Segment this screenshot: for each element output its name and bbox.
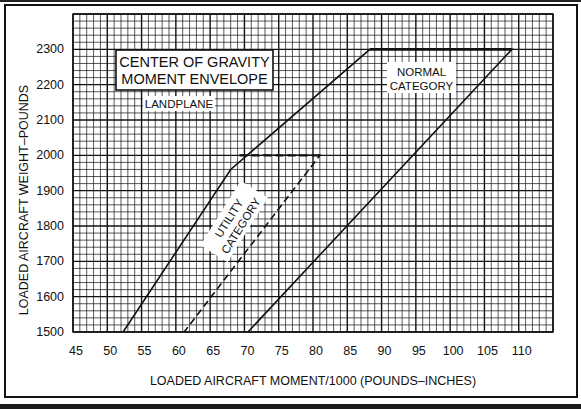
x-tick-label: 80	[309, 344, 323, 358]
x-tick-label: 45	[69, 344, 83, 358]
x-tick-label: 75	[275, 344, 289, 358]
x-axis-ticks: 4550556065707580859095100105110	[69, 344, 532, 358]
y-tick-label: 1600	[36, 290, 64, 304]
x-tick-label: 65	[206, 344, 220, 358]
y-tick-label: 1800	[36, 219, 64, 233]
x-tick-label: 50	[103, 344, 117, 358]
x-tick-label: 70	[240, 344, 254, 358]
landplane-label: LANDPLANE	[143, 96, 215, 111]
y-axis-ticks: 150016001700180019002000210022002300	[36, 42, 64, 339]
y-tick-label: 1500	[36, 325, 64, 339]
subtitle: LANDPLANE	[145, 98, 214, 110]
x-tick-label: 55	[138, 344, 152, 358]
title-line-2: MOMENT ENVELOPE	[121, 71, 268, 87]
y-tick-label: 2200	[36, 78, 64, 92]
x-tick-label: 90	[378, 344, 392, 358]
x-tick-label: 95	[412, 344, 426, 358]
y-tick-label: 1700	[36, 254, 64, 268]
x-tick-label: 100	[443, 344, 464, 358]
y-tick-label: 1900	[36, 184, 64, 198]
x-tick-label: 105	[477, 344, 498, 358]
normal-category-label: NORMAL CATEGORY	[387, 62, 456, 93]
title-box: CENTER OF GRAVITY MOMENT ENVELOPE	[116, 50, 273, 90]
title-line-1: CENTER OF GRAVITY	[119, 54, 270, 70]
x-tick-label: 85	[343, 344, 357, 358]
normal-label-line-1: NORMAL	[397, 66, 447, 78]
y-tick-label: 2100	[36, 113, 64, 127]
normal-label-line-2: CATEGORY	[390, 80, 454, 92]
x-tick-label: 110	[512, 344, 532, 358]
x-axis-label: LOADED AIRCRAFT MOMENT/1000 (POUNDS–INCH…	[150, 374, 476, 388]
y-tick-label: 2000	[36, 148, 64, 162]
x-tick-label: 60	[172, 344, 186, 358]
cg-envelope-chart: 4550556065707580859095100105110 15001600…	[0, 0, 581, 409]
y-tick-label: 2300	[36, 42, 64, 56]
y-axis-label: LOADED AIRCRAFT WEIGHT–POUNDS	[17, 85, 31, 315]
